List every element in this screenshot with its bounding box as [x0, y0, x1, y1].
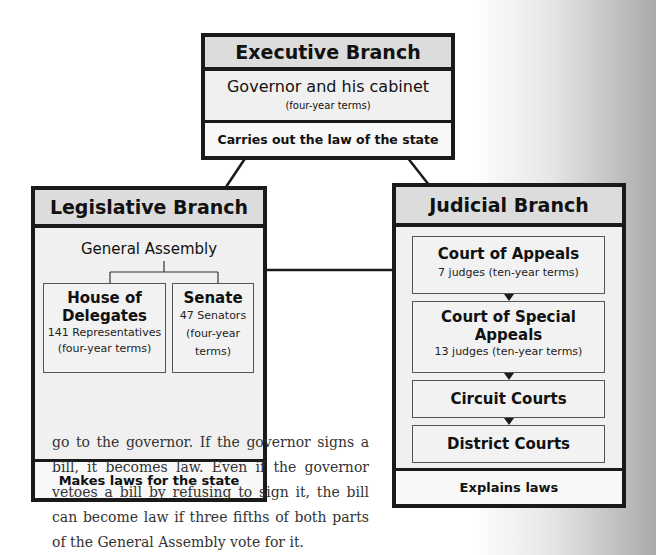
district-courts-box: District Courts [412, 425, 605, 463]
court-of-appeals-detail: 7 judges (ten-year terms) [413, 265, 604, 281]
judicial-branch-box: Judicial Branch Court of Appeals 7 judge… [392, 183, 626, 508]
house-terms: (four-year terms) [44, 341, 165, 357]
judicial-footer: Explains laws [396, 468, 622, 504]
house-of-delegates-box: House of Delegates 141 Representatives (… [43, 283, 166, 373]
arrow-down-icon [504, 418, 514, 425]
senate-box: Senate 47 Senators (four-year terms) [172, 283, 254, 373]
special-appeals-detail: 13 judges (ten-year terms) [413, 344, 604, 360]
court-of-appeals-box: Court of Appeals 7 judges (ten-year term… [412, 236, 605, 294]
district-courts-name: District Courts [447, 435, 570, 453]
special-appeals-name-1: Court of Special [413, 308, 604, 326]
executive-footer: Carries out the law of the state [205, 123, 451, 156]
judicial-branch-title: Judicial Branch [396, 187, 622, 227]
executive-branch-title: Executive Branch [205, 37, 451, 71]
house-title-2: Delegates [44, 307, 165, 325]
arrow-down-icon [504, 373, 514, 380]
special-appeals-name-2: Appeals [413, 326, 604, 344]
circuit-courts-box: Circuit Courts [412, 380, 605, 418]
senate-count: 47 Senators [173, 307, 253, 325]
arrow-down-icon [504, 294, 514, 301]
executive-body-title: Governor and his cabinet [205, 76, 451, 98]
circuit-courts-name: Circuit Courts [450, 390, 566, 408]
executive-branch-box: Executive Branch Governor and his cabine… [201, 33, 455, 160]
court-of-appeals-name: Court of Appeals [413, 243, 604, 265]
house-count: 141 Representatives [44, 325, 165, 341]
body-paragraph: go to the governor. If the governor sign… [52, 430, 369, 555]
court-of-special-appeals-box: Court of Special Appeals 13 judges (ten-… [412, 301, 605, 373]
house-title-1: House of [44, 289, 165, 307]
executive-body: Governor and his cabinet (four-year term… [205, 71, 451, 123]
executive-body-sub: (four-year terms) [205, 98, 451, 114]
senate-terms-1: (four-year [173, 325, 253, 343]
senate-terms-2: terms) [173, 343, 253, 361]
senate-title: Senate [173, 289, 253, 307]
